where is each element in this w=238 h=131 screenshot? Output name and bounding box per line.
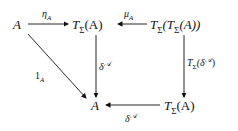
node-arg-pre: (T — [163, 17, 175, 32]
label-delta-left: δ𝒜 — [99, 62, 111, 72]
node-arg: (A) — [177, 98, 195, 113]
delta-sup: 𝒜 — [104, 60, 111, 68]
node-a-top-text: A — [13, 17, 21, 32]
node-t-a-top: TΣ(A) — [72, 18, 103, 31]
node-t-t-a: TΣ(TΣ(A)) — [150, 18, 200, 31]
label-delta-bottom: δ𝒜 — [125, 114, 137, 124]
label-mu: μA — [124, 9, 133, 19]
eta-sub: A — [47, 14, 51, 22]
arrow-identity — [28, 34, 86, 98]
node-arg-post: (A)) — [179, 17, 200, 32]
node-a-top: A — [13, 18, 21, 31]
identity-sub: A — [40, 76, 44, 84]
delta-symbol: (δ — [197, 57, 205, 68]
delta-sup: 𝒜 — [205, 56, 212, 64]
mu-sub: A — [129, 14, 133, 22]
node-a-bottom: A — [91, 99, 99, 112]
node-t-a-bottom: TΣ(A) — [164, 99, 195, 112]
node-arg: (A) — [85, 17, 103, 32]
label-identity: 1A — [35, 71, 44, 81]
close-paren: ) — [212, 57, 215, 68]
label-t-delta: TΣ(δ𝒜) — [187, 58, 215, 68]
node-a-bottom-text: A — [91, 98, 99, 113]
label-eta: ηA — [42, 9, 51, 19]
delta-sup: 𝒜 — [130, 112, 137, 120]
